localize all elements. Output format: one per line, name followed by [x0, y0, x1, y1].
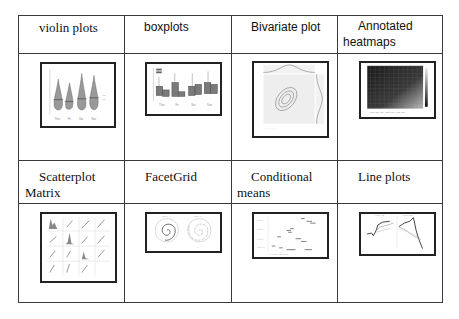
title-scatterplot: Scatterplot	[39, 169, 95, 184]
svg-text:Sat: Sat	[191, 103, 195, 107]
svg-text:Thur: Thur	[55, 117, 61, 121]
title-bivariate-plot: Bivariate plot	[251, 20, 320, 35]
heatmap-image: 1949 1950 1951 1952 1953 1954 1955	[361, 63, 434, 117]
svg-text:Conf. B: Conf. B	[257, 228, 265, 230]
title-violin-plots: violin plots	[39, 20, 98, 35]
line-plot-image: event=cueevent=stim	[361, 214, 434, 254]
svg-text:1949 1950 1951 1952 1953 1954: 1949 1950 1951 1952 1953 1954 1955	[369, 111, 406, 114]
svg-text:r: r	[197, 246, 198, 248]
row-divider	[18, 203, 443, 204]
conditional-means-thumbnail[interactable]: Conf. AConf. BConf. CConf. D 0 10 20 30 …	[252, 212, 329, 259]
title-means: means	[237, 185, 270, 200]
conditional-means-image: Conf. AConf. BConf. CConf. D 0 10 20 30 …	[254, 214, 327, 257]
boxplot-image: ThurFriSatSun	[147, 64, 220, 114]
svg-text:event=cue: event=cue	[375, 214, 384, 216]
title-conditional: Conditional	[251, 169, 312, 184]
svg-text:Thur: Thur	[159, 103, 165, 107]
row-divider	[18, 53, 443, 54]
svg-text:Fri: Fri	[176, 103, 180, 107]
svg-text:0 10 20 30 40 50 60: 0 10 20 30 40 50 60	[270, 253, 289, 255]
row-divider	[18, 160, 443, 161]
svg-text:Fri: Fri	[68, 117, 72, 121]
svg-text:Conf. D: Conf. D	[257, 246, 265, 248]
svg-text:- - - - - -: - - - - - -	[265, 126, 274, 130]
violin-plot-image: ▪ ▪▪ ▪ ThurFriSatSun	[42, 64, 114, 126]
column-divider	[124, 15, 125, 303]
svg-text:speed=1: speed=1	[162, 215, 170, 217]
scatterplot-matrix-image	[42, 214, 115, 281]
column-divider	[231, 15, 232, 303]
heatmap-thumbnail[interactable]: 1949 1950 1951 1952 1953 1954 1955	[359, 61, 436, 119]
title-facetgrid: FacetGrid	[145, 169, 197, 184]
bivariate-plot-image: - - - - - -	[254, 63, 327, 136]
svg-text:Sun: Sun	[207, 103, 212, 107]
title-annotated: Annotated	[358, 19, 413, 34]
svg-text:r: r	[165, 246, 166, 248]
scatterplot-matrix-thumbnail[interactable]	[40, 212, 117, 283]
violin-plot-thumbnail[interactable]: ▪ ▪▪ ▪ ThurFriSatSun	[40, 62, 116, 128]
svg-text:event=stim: event=stim	[403, 214, 413, 216]
title-matrix: Matrix	[25, 185, 60, 200]
boxplot-thumbnail[interactable]: ThurFriSatSun	[145, 62, 222, 116]
facetgrid-image: speed=1speed=2rr	[147, 214, 220, 251]
svg-text:Conf. A: Conf. A	[257, 219, 265, 221]
svg-text:▪ ▪: ▪ ▪	[102, 97, 105, 101]
title-heatmaps: heatmaps	[343, 35, 396, 50]
svg-text:Sun: Sun	[91, 117, 96, 121]
title-boxplots: boxplots	[144, 20, 189, 35]
svg-text:Conf. C: Conf. C	[257, 238, 265, 240]
line-plot-thumbnail[interactable]: event=cueevent=stim	[359, 212, 436, 256]
column-divider	[337, 15, 338, 303]
svg-text:speed=2: speed=2	[194, 215, 202, 217]
title-line-plots: Line plots	[358, 169, 410, 184]
facetgrid-thumbnail[interactable]: speed=1speed=2rr	[145, 212, 222, 253]
bivariate-plot-thumbnail[interactable]: - - - - - -	[252, 61, 329, 138]
svg-text:Sat: Sat	[79, 117, 83, 121]
